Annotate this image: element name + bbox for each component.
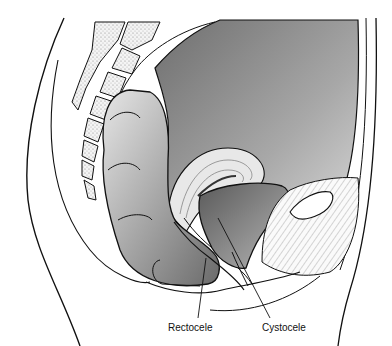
body-outline-back (27, 18, 80, 346)
cystocele-label: Cystocele (262, 322, 306, 333)
anatomy-illustration (0, 0, 392, 346)
pelvic-prolapse-diagram: Rectocele Cystocele (0, 0, 392, 346)
rectocele-label: Rectocele (168, 322, 212, 333)
